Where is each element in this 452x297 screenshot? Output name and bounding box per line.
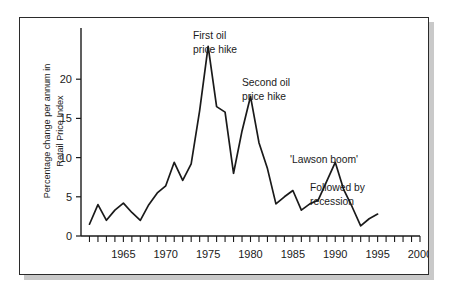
x-tick-label: 1985 <box>281 248 305 260</box>
x-tick-label: 1975 <box>196 248 220 260</box>
y-tick-label: 20 <box>60 73 72 85</box>
y-tick-label: 5 <box>66 191 72 203</box>
y-tick-label: 10 <box>60 152 72 164</box>
chart-figure: Percentage change per annum in Retail Pr… <box>0 0 452 297</box>
annotation-first-oil-hike-line2: price hike <box>193 43 237 57</box>
plot-area: 0510152019651970197519801985199019952000 <box>20 18 428 274</box>
annotation-followed-by-recession-line1: Followed by <box>310 181 365 195</box>
annotation-followed-by-recession-line2: recession <box>310 195 365 209</box>
y-tick-label: 0 <box>66 230 72 242</box>
y-tick-label: 15 <box>60 112 72 124</box>
annotation-lawson-boom: 'Lawson boom' <box>290 153 358 167</box>
x-tick-label: 1990 <box>323 248 347 260</box>
x-tick-label: 1980 <box>238 248 262 260</box>
annotation-first-oil-hike: First oil price hike <box>193 29 237 56</box>
annotation-second-oil-hike-line1: Second oil <box>242 76 290 90</box>
x-tick-label: 1965 <box>111 248 135 260</box>
annotation-first-oil-hike-line1: First oil <box>193 29 237 43</box>
annotation-followed-by-recession: Followed by recession <box>310 181 365 208</box>
annotation-second-oil-hike-line2: price hike <box>242 90 290 104</box>
x-tick-label: 1995 <box>365 248 389 260</box>
chart-frame: Percentage change per annum in Retail Pr… <box>19 17 429 275</box>
x-tick-label: 1970 <box>154 248 178 260</box>
annotation-second-oil-hike: Second oil price hike <box>242 76 290 103</box>
x-tick-label: 2000 <box>408 248 428 260</box>
annotation-lawson-boom-line1: 'Lawson boom' <box>290 153 358 167</box>
